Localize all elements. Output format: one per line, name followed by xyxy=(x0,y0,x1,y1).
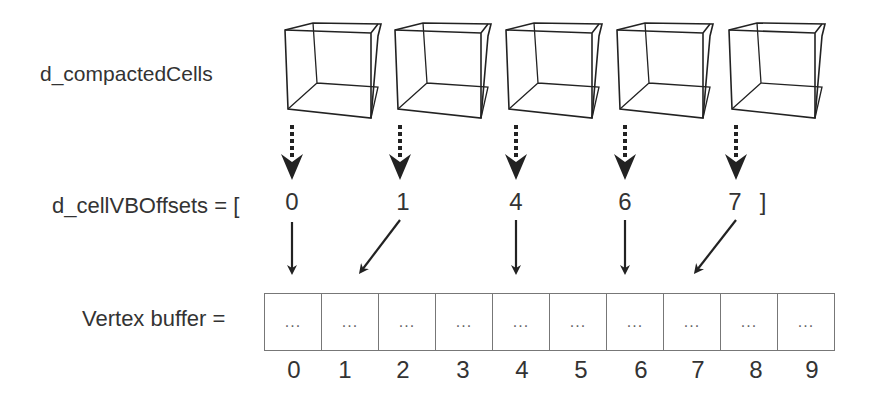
buffer-index: 4 xyxy=(507,356,537,384)
cube-icon-2 xyxy=(506,23,602,118)
buffer-index: 2 xyxy=(388,356,418,384)
dotted-arrow-heads xyxy=(281,154,747,180)
cube-icon-0 xyxy=(285,23,381,118)
buffer-index: 8 xyxy=(741,356,771,384)
dotted-arrows xyxy=(292,125,736,160)
offsets-close-bracket: ] xyxy=(748,188,778,216)
cube-icon-3 xyxy=(617,23,713,118)
vertex-buffer-label: Vertex buffer = xyxy=(82,306,225,332)
buffer-cell: ... xyxy=(607,294,664,350)
buffer-cell: ... xyxy=(265,294,322,350)
buffer-cell: ... xyxy=(721,294,778,350)
buffer-index: 5 xyxy=(566,356,596,384)
buffer-index: 1 xyxy=(330,356,360,384)
solid-arrows xyxy=(292,220,736,270)
offset-value: 6 xyxy=(610,188,640,216)
offset-value: 1 xyxy=(388,188,418,216)
buffer-cell: ... xyxy=(322,294,379,350)
buffer-cell: ... xyxy=(379,294,436,350)
cube-icon-4 xyxy=(729,23,825,118)
buffer-cell: ... xyxy=(664,294,721,350)
offset-value: 7 xyxy=(720,188,750,216)
buffer-index: 7 xyxy=(683,356,713,384)
buffer-index: 6 xyxy=(626,356,656,384)
buffer-index: 9 xyxy=(797,356,827,384)
buffer-index: 0 xyxy=(279,356,309,384)
compacted-cells-label: d_compactedCells xyxy=(40,62,213,86)
offset-value: 4 xyxy=(501,188,531,216)
buffer-cell: ... xyxy=(550,294,607,350)
vertex-buffer: ... ... ... ... ... ... ... ... ... ... xyxy=(264,293,835,351)
offset-value: 0 xyxy=(277,188,307,216)
cube-icon-1 xyxy=(395,23,491,118)
buffer-cell: ... xyxy=(436,294,493,350)
offsets-label: d_cellVBOffsets = [ xyxy=(52,193,239,219)
buffer-cell: ... xyxy=(778,294,835,350)
buffer-index: 3 xyxy=(448,356,478,384)
buffer-cell: ... xyxy=(493,294,550,350)
